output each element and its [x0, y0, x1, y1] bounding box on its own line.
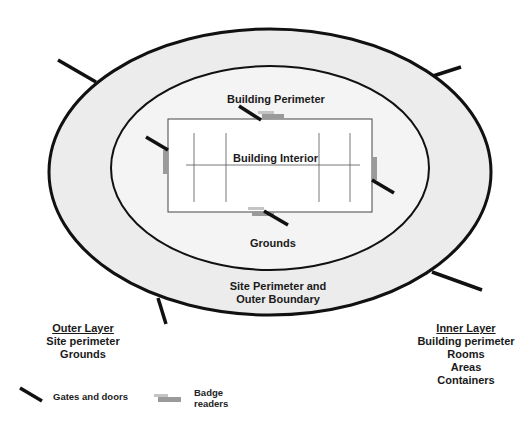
inner-layer-item: Building perimeter — [410, 335, 522, 348]
building-perimeter-label: Building Perimeter — [227, 93, 325, 106]
inner-layer-item: Rooms — [410, 348, 522, 361]
legend-badge-label-line1: Badge — [194, 387, 228, 398]
building-interior-label: Building Interior — [233, 152, 318, 165]
outer-layer-block: Outer Layer Site perimeter Grounds — [40, 322, 126, 361]
site-perimeter-label: Site Perimeter and Outer Boundary — [223, 280, 333, 306]
legend-gates-label: Gates and doors — [53, 391, 128, 402]
legend-badge-label: Badge readers — [194, 387, 228, 409]
grounds-label: Grounds — [250, 237, 296, 250]
inner-layer-heading: Inner Layer — [410, 322, 522, 335]
legend-badge-label-line2: readers — [194, 398, 228, 409]
inner-layer-item: Containers — [410, 374, 522, 387]
legend-gate-icon — [20, 388, 42, 401]
site-perimeter-label-line2: Outer Boundary — [223, 293, 333, 306]
outer-layer-item: Site perimeter — [40, 335, 126, 348]
inner-layer-item: Areas — [410, 361, 522, 374]
inner-layer-block: Inner Layer Building perimeter Rooms Are… — [410, 322, 522, 387]
site-perimeter-label-line1: Site Perimeter and — [223, 280, 333, 293]
outer-layer-item: Grounds — [40, 348, 126, 361]
outer-layer-heading: Outer Layer — [40, 322, 126, 335]
building-outline — [168, 119, 372, 212]
legend-badge-reader-icon — [154, 394, 181, 402]
